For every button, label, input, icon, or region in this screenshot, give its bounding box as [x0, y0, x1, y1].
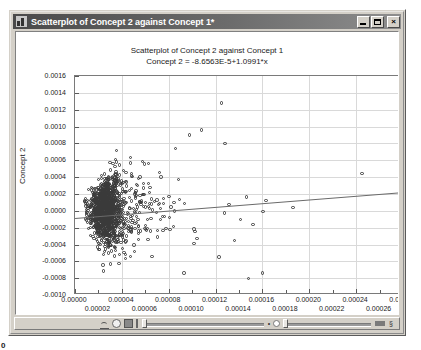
scatter-point	[261, 210, 264, 213]
bar-icon[interactable]	[136, 319, 138, 328]
scatter-point	[125, 234, 128, 237]
gridline-horizontal	[75, 93, 399, 94]
slider-handle[interactable]	[142, 319, 147, 328]
scatter-point	[111, 208, 114, 211]
scatter-point	[108, 239, 111, 242]
scatter-point-outlier	[239, 218, 242, 221]
x-tick-label: 0.00008	[155, 296, 180, 303]
x-tick-label: 0.00028	[389, 296, 399, 303]
scatter-point	[245, 195, 248, 198]
scatter-point-outlier	[220, 101, 223, 104]
scatter-point	[144, 201, 147, 204]
bottom-toolbar[interactable]: • §	[14, 317, 400, 330]
y-axis-tick	[75, 278, 79, 279]
scatter-point	[158, 202, 161, 205]
slider-track	[283, 323, 371, 327]
scatter-point	[177, 178, 180, 181]
scatter-point	[129, 255, 132, 258]
horizontal-slider-right[interactable]	[283, 319, 371, 328]
chart-icon	[15, 15, 28, 28]
scatter-point	[100, 238, 103, 241]
scatter-point	[107, 251, 110, 254]
slider-handle[interactable]	[283, 319, 288, 328]
scatter-point	[113, 165, 116, 168]
x-tick-label: 0.00002	[85, 305, 110, 312]
x-axis-tick	[286, 290, 287, 293]
plot-area[interactable]	[74, 75, 399, 294]
scatter-point-outlier	[360, 172, 363, 175]
scatter-point	[134, 189, 137, 192]
y-axis-tick	[75, 228, 79, 229]
scatter-point	[138, 175, 141, 178]
x-axis-tick	[169, 289, 170, 293]
close-button[interactable]: ×	[387, 16, 400, 28]
maximize-button[interactable]	[371, 16, 384, 28]
pill-icon[interactable]	[375, 321, 385, 326]
scatter-point	[162, 197, 165, 200]
scatter-point	[136, 205, 139, 208]
screenshot-root: Scatterplot of Concept 2 against Concept…	[0, 0, 421, 350]
x-tick-label: 0.00024	[342, 296, 367, 303]
y-axis-tick	[75, 143, 79, 144]
x-axis-tick	[122, 289, 123, 293]
gridline-horizontal	[75, 177, 399, 178]
scatter-point	[101, 263, 104, 266]
scatter-point-outlier	[182, 271, 185, 274]
corner-mark: 0	[1, 341, 5, 350]
scatter-point	[117, 262, 120, 265]
scatter-point	[120, 179, 123, 182]
curve-icon[interactable]	[100, 319, 109, 329]
y-axis-tick	[75, 194, 79, 195]
scatter-point	[117, 208, 120, 211]
scatter-point	[159, 207, 162, 210]
scatter-point	[109, 262, 112, 265]
scatter-point	[109, 243, 112, 246]
scatter-point	[142, 186, 145, 189]
scatter-point	[128, 207, 131, 210]
x-tick-label: 0.00014	[225, 305, 250, 312]
scatter-point	[142, 182, 145, 185]
scatter-point	[139, 229, 142, 232]
scatter-point	[128, 189, 131, 192]
scatter-point	[129, 161, 132, 164]
window-title: Scatterplot of Concept 2 against Concept…	[31, 17, 357, 27]
y-axis-tick	[75, 110, 79, 111]
y-tick-label: -0.0002	[42, 223, 66, 230]
x-axis-tick	[145, 290, 146, 293]
x-axis-tick	[262, 289, 263, 293]
scatter-point	[183, 202, 186, 205]
scatter-point	[112, 234, 115, 237]
scatter-point	[141, 160, 144, 163]
circle-icon[interactable]	[112, 319, 121, 328]
horizontal-slider-left[interactable]	[142, 319, 264, 328]
scatter-point	[159, 218, 162, 221]
scatter-point	[109, 168, 112, 171]
scatter-point	[192, 227, 195, 230]
scatter-point-outlier	[251, 223, 254, 226]
gridline-horizontal	[75, 110, 399, 111]
scatter-point	[115, 149, 118, 152]
scatter-point	[118, 173, 121, 176]
y-tick-label: -0.0004	[42, 240, 66, 247]
square-icon[interactable]	[124, 319, 133, 328]
y-axis-tick	[75, 261, 79, 262]
scatter-point	[143, 162, 146, 165]
scatter-point	[129, 156, 132, 159]
scatter-point	[97, 178, 100, 181]
scatter-point	[122, 203, 125, 206]
minimize-button[interactable]	[357, 16, 370, 28]
scatter-point	[167, 195, 170, 198]
scatter-point	[133, 250, 136, 253]
radio-dot-icon[interactable]	[273, 320, 280, 327]
scatter-point-outlier	[291, 206, 294, 209]
scatter-point	[136, 218, 139, 221]
title-bar[interactable]: Scatterplot of Concept 2 against Concept…	[13, 14, 401, 29]
scatter-point	[112, 194, 115, 197]
slider-track	[142, 323, 264, 327]
scatter-point-outlier	[188, 133, 191, 136]
scatter-point	[130, 199, 133, 202]
window-controls: ×	[357, 16, 400, 28]
scatter-point	[136, 184, 139, 187]
scatter-point	[168, 228, 171, 231]
scatter-point	[150, 197, 153, 200]
